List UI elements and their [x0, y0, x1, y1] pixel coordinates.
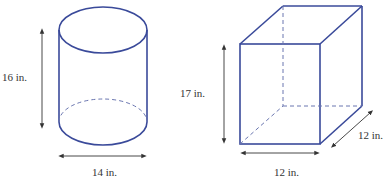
box-height-label: 17 in.	[180, 87, 205, 99]
box-front-face	[240, 44, 320, 144]
box-hidden-bottom-left	[240, 106, 283, 144]
cylinder-figure: 16 in. 14 in.	[2, 7, 147, 178]
cylinder-height-label: 16 in.	[2, 71, 27, 83]
box-top-left-edge	[240, 6, 283, 44]
cylinder-bottom-front	[59, 122, 147, 145]
box-figure: 17 in. 12 in. 12 in.	[180, 6, 383, 178]
cylinder-diameter-label: 14 in.	[92, 166, 117, 178]
diagram-canvas: 16 in. 14 in. 17 in. 12 in. 12 in.	[0, 0, 390, 180]
cylinder-bottom-back	[59, 99, 147, 122]
box-width-label: 12 in.	[274, 166, 299, 178]
cylinder-top	[59, 7, 147, 53]
box-top-right-edge	[320, 6, 362, 44]
box-depth-label: 12 in.	[358, 129, 383, 141]
